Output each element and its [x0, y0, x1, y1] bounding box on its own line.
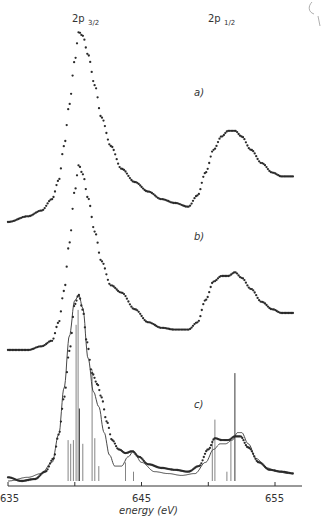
- data-point: [138, 311, 140, 313]
- data-point: [201, 182, 203, 184]
- data-point: [199, 315, 201, 317]
- data-point: [48, 465, 50, 467]
- data-point: [95, 233, 97, 235]
- data-point: [202, 176, 204, 178]
- data-point: [60, 310, 62, 312]
- data-point: [95, 380, 97, 382]
- data-point: [254, 152, 256, 154]
- data-point: [292, 472, 294, 474]
- data-point: [61, 408, 63, 410]
- data-point: [126, 172, 128, 174]
- data-point: [52, 337, 54, 339]
- data-point: [63, 145, 65, 147]
- data-point: [127, 300, 129, 302]
- tick-label-645: 645: [132, 493, 151, 504]
- data-point: [93, 377, 95, 379]
- data-point: [203, 456, 205, 458]
- data-point: [97, 384, 99, 386]
- tick-label-655: 655: [265, 493, 284, 504]
- data-point: [251, 450, 253, 452]
- data-point: [116, 158, 118, 160]
- pen-mark-decoration: [309, 2, 320, 26]
- svg-text:3/2: 3/2: [88, 19, 99, 27]
- data-point: [243, 279, 245, 281]
- data-point: [85, 46, 87, 48]
- data-point: [82, 173, 84, 175]
- data-point: [76, 174, 78, 176]
- data-point: [255, 155, 257, 157]
- data-point: [83, 178, 85, 180]
- data-point: [108, 427, 110, 429]
- data-point: [88, 198, 90, 200]
- data-point: [267, 168, 269, 170]
- data-point: [129, 303, 131, 305]
- data-point: [64, 140, 66, 142]
- data-point: [63, 396, 65, 398]
- data-point: [105, 132, 107, 134]
- data-point: [73, 305, 75, 307]
- data-point: [87, 348, 89, 350]
- data-point: [73, 192, 75, 194]
- data-point: [65, 387, 67, 389]
- data-point: [103, 408, 105, 410]
- data-point: [189, 205, 191, 207]
- data-point: [96, 242, 98, 244]
- data-point: [107, 138, 109, 140]
- data-point: [86, 196, 88, 198]
- data-point: [104, 125, 106, 127]
- data-point: [70, 229, 72, 231]
- svg-text:2p: 2p: [72, 13, 85, 24]
- data-point: [88, 54, 90, 56]
- data-point: [71, 74, 73, 76]
- data-point: [57, 322, 59, 324]
- data-point: [71, 208, 73, 210]
- data-point: [52, 196, 54, 198]
- data-point: [56, 438, 58, 440]
- data-point: [64, 284, 66, 286]
- data-point: [192, 200, 194, 202]
- data-point: [264, 164, 266, 166]
- data-point: [89, 61, 91, 63]
- data-point: [70, 93, 72, 95]
- data-point: [256, 158, 258, 160]
- tick-label-635: 635: [0, 493, 19, 504]
- data-point: [83, 39, 85, 41]
- data-point: [113, 149, 115, 151]
- data-point: [199, 188, 201, 190]
- data-point: [69, 103, 71, 105]
- data-point: [74, 57, 76, 59]
- data-point: [71, 332, 73, 334]
- data-point: [204, 453, 206, 455]
- data-point: [95, 87, 97, 89]
- data-point: [214, 148, 216, 150]
- data-point: [190, 326, 192, 328]
- data-point: [201, 309, 203, 311]
- label-2p32: 2p 3/2: [72, 13, 99, 27]
- data-point: [129, 177, 131, 179]
- x-axis: 635 645 655 energy (eV): [0, 482, 302, 516]
- data-point: [78, 294, 80, 296]
- data-point: [205, 171, 207, 173]
- data-point: [245, 282, 247, 284]
- data-point: [61, 153, 63, 155]
- data-point: [62, 398, 64, 400]
- data-point: [241, 437, 243, 439]
- data-point: [93, 84, 95, 86]
- data-point: [124, 170, 126, 172]
- data-point: [53, 457, 55, 459]
- data-point: [55, 445, 57, 447]
- label-2p12: 2p 1/2: [208, 13, 235, 27]
- data-point: [58, 320, 60, 322]
- data-point: [57, 180, 59, 182]
- data-point: [265, 166, 267, 168]
- data-point: [89, 359, 91, 361]
- data-point: [215, 145, 217, 147]
- data-point: [201, 459, 203, 461]
- data-point: [114, 442, 116, 444]
- data-point: [104, 267, 106, 269]
- data-point: [208, 162, 210, 164]
- data-point: [101, 117, 103, 119]
- data-point: [54, 453, 56, 455]
- data-point: [84, 326, 86, 328]
- x-axis-title: energy (eV): [119, 505, 178, 516]
